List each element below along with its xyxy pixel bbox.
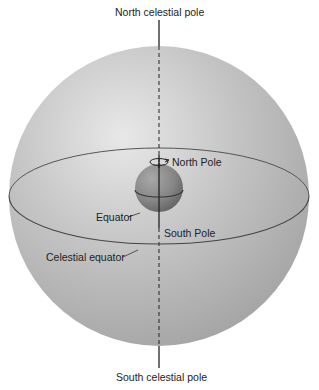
equator-label: Equator bbox=[96, 211, 133, 223]
celestial-equator-label: Celestial equator bbox=[46, 251, 125, 263]
north-pole-label: North Pole bbox=[172, 156, 222, 168]
celestial-sphere-diagram bbox=[0, 0, 319, 390]
north-celestial-pole-label: North celestial pole bbox=[115, 6, 204, 18]
south-celestial-pole-label: South celestial pole bbox=[116, 371, 207, 383]
south-pole-label: South Pole bbox=[164, 227, 215, 239]
